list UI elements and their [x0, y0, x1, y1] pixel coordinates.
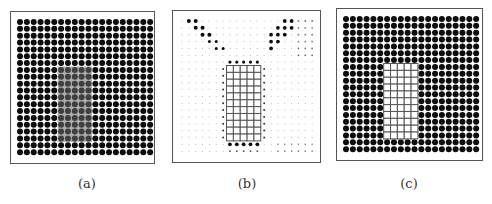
- panel-b-frame: [172, 10, 321, 163]
- panel-b-label: (b): [238, 176, 256, 191]
- panel-a-frame: [10, 11, 155, 164]
- dot-lattice-b: [173, 11, 320, 162]
- panel-c-label: (c): [400, 176, 417, 191]
- panel-a-label: (a): [78, 176, 96, 191]
- panel-c-frame: [336, 8, 483, 161]
- dot-lattice-a: [11, 12, 154, 163]
- dot-lattice-c: [337, 9, 482, 160]
